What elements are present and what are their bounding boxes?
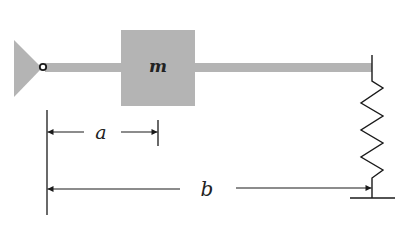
mass-label: m: [149, 56, 167, 76]
rigid-bar: [45, 63, 372, 72]
spring: [361, 55, 383, 198]
pin-support-triangle: [14, 40, 42, 97]
dimension-a-label: a: [95, 121, 106, 143]
pivot-circle: [40, 64, 46, 70]
diagram-canvas: m a b: [0, 0, 407, 233]
dimension-b-label: b: [201, 177, 214, 201]
